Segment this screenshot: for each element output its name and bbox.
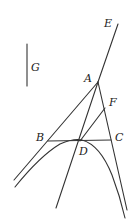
geometric-diagram: E G A F B C D — [0, 0, 134, 223]
label-b: B — [35, 131, 44, 144]
label-a: A — [83, 72, 92, 85]
label-d: D — [78, 145, 88, 158]
label-e: E — [103, 17, 112, 30]
line-ea — [98, 24, 118, 82]
parabola-curve — [15, 140, 125, 219]
line-ab — [14, 82, 98, 180]
label-c: C — [115, 131, 124, 144]
label-g: G — [31, 61, 40, 74]
label-f: F — [108, 96, 117, 109]
